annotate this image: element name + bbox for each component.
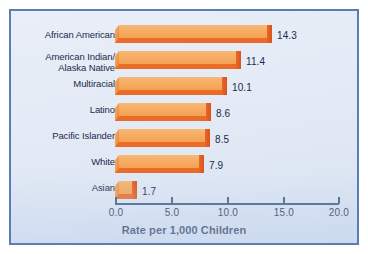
x-axis-tick [338, 197, 340, 204]
value-label: 11.4 [246, 56, 265, 68]
x-axis-tick-label: 10.0 [208, 207, 248, 219]
bar-front-face [115, 168, 204, 173]
bar-front-face [115, 90, 227, 95]
bar-top-face [119, 25, 272, 38]
value-label: 1.7 [142, 186, 156, 198]
category-label: Multiracial [9, 79, 115, 90]
value-label: 8.5 [215, 134, 229, 146]
x-axis-tick [227, 197, 229, 204]
bar-front-face [115, 38, 272, 43]
category-label: Asian [9, 183, 115, 194]
x-axis-tick [283, 197, 285, 204]
chart-plot-frame: African American American Indian/ Alaska… [9, 9, 359, 245]
bar-top-face [119, 155, 204, 168]
bar-end-cap [267, 25, 272, 43]
bar-end-cap [222, 77, 227, 95]
bar-end-cap [199, 155, 204, 173]
x-axis-tick-label: 0.0 [96, 207, 136, 219]
x-axis-tick-label: 20.0 [319, 207, 359, 219]
chart-figure: African American American Indian/ Alaska… [0, 0, 368, 254]
bar-top-face [119, 77, 227, 90]
category-label: White [9, 157, 115, 168]
value-label: 14.3 [277, 30, 297, 42]
chart-plot-area: African American American Indian/ Alaska… [11, 11, 357, 243]
category-label: Latino [9, 105, 115, 116]
bar-end-cap [205, 129, 210, 147]
value-label: 10.1 [232, 82, 252, 94]
bar-front-face [115, 116, 211, 121]
bar-end-cap [236, 51, 241, 69]
x-axis-tick-label: 5.0 [152, 207, 192, 219]
bar-top-face [119, 129, 210, 142]
bar-top-face [119, 103, 211, 116]
category-label: American Indian/ Alaska Native [9, 52, 115, 73]
x-axis-title: Rate per 1,000 Children [11, 224, 357, 236]
x-axis-tick-label: 15.0 [264, 207, 304, 219]
bar-top-face [119, 51, 241, 64]
value-label: 7.9 [209, 160, 223, 172]
category-label: Pacific Islander [9, 131, 115, 142]
value-label: 8.6 [216, 108, 230, 120]
bar-end-cap [206, 103, 211, 121]
category-label: African American [9, 30, 115, 41]
bar-front-face [115, 142, 210, 147]
bar-end-cap [132, 181, 137, 199]
x-axis-tick [115, 197, 117, 204]
x-axis-tick [171, 197, 173, 204]
bar-front-face [115, 64, 241, 69]
